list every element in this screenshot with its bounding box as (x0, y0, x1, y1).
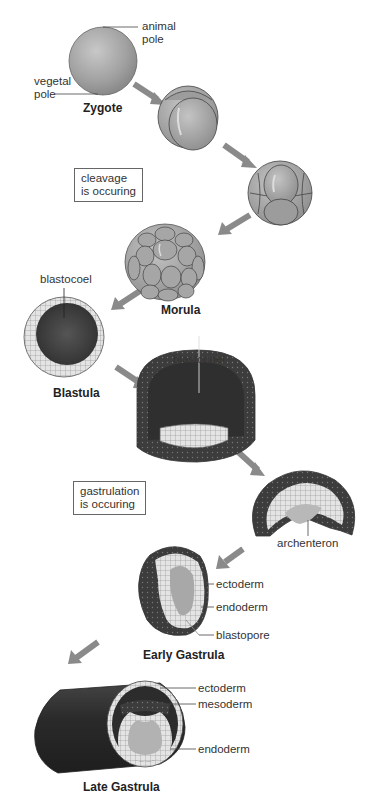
late-gastrula-title: Late Gastrula (83, 780, 160, 794)
mesoderm-label: mesoderm (198, 698, 252, 711)
four-cell-stage (158, 86, 218, 150)
vegetal-pole-line2: pole (34, 88, 71, 101)
archenteron-label: archenteron (277, 537, 338, 550)
gastrulation-line2: is occuring (80, 498, 139, 511)
gastrulation-invagination (252, 471, 354, 536)
vegetal-pole-label: vegetal pole (34, 75, 71, 101)
blastula-title: Blastula (53, 386, 100, 400)
animal-pole-label: animal pole (142, 20, 176, 46)
animal-pole-line1: animal (142, 20, 176, 33)
morula (125, 224, 205, 301)
gastrulation-line1: gastrulation (80, 485, 139, 498)
ectoderm-label-2: ectoderm (198, 682, 246, 695)
ectoderm-label-1: ectoderm (216, 578, 264, 591)
endoderm-label-1: endoderm (216, 601, 268, 614)
zygote-title: Zygote (83, 101, 122, 115)
blastocoel-label-1: blastocoel (40, 273, 92, 286)
gastrulation-callout: gastrulation is occuring (73, 481, 146, 515)
cleavage-callout: cleavage is occuring (74, 168, 143, 202)
endoderm-label-2: endoderm (198, 743, 250, 756)
morula-title: Morula (161, 303, 200, 317)
blastopore-label: blastopore (216, 629, 270, 642)
early-gastrula (139, 547, 214, 636)
animal-pole-line2: pole (142, 33, 176, 46)
blastocoel-label-2: blastocoel (173, 353, 225, 366)
cleavage-line1: cleavage (81, 172, 136, 185)
vegetal-pole-line1: vegetal (34, 75, 71, 88)
early-gastrula-title: Early Gastrula (143, 648, 224, 662)
embryo-development-artwork (0, 0, 369, 802)
blastula (24, 288, 104, 386)
late-gastrula (35, 681, 196, 773)
eight-cell-stage (248, 161, 312, 225)
cleavage-line2: is occuring (81, 185, 136, 198)
